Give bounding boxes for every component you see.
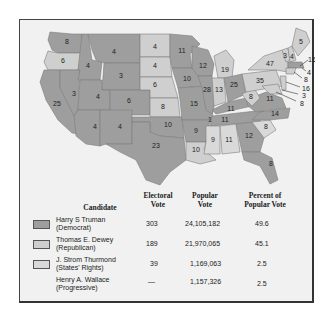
label-ct: 8	[304, 76, 308, 83]
label-mi: 19	[221, 66, 229, 73]
popular-vote: 21,970,065	[185, 240, 220, 247]
label-ri: 4	[307, 69, 311, 76]
label-sc: 8	[264, 123, 268, 130]
label-az: 4	[93, 123, 97, 130]
label-mo: 15	[190, 100, 198, 107]
label-nm: 4	[118, 123, 122, 130]
candidate-party: (States' Rights)	[56, 264, 116, 272]
leader-ri	[302, 68, 306, 71]
label-sd: 4	[153, 62, 157, 69]
label-oh: 25	[230, 81, 238, 88]
candidate-name: Harry S Truman	[56, 216, 105, 224]
state-wi	[192, 46, 214, 76]
leader-de	[282, 90, 298, 94]
table-row-wallace: Henry A. Wallace (Progressive) — 1,157,3…	[20, 274, 315, 294]
label-ms: 9	[211, 136, 215, 143]
candidate-cell: Harry S Truman (Democrat)	[56, 216, 105, 232]
candidate-party: (Republican)	[56, 244, 113, 252]
label-wi: 12	[199, 62, 207, 69]
label-nc: 14	[271, 110, 279, 117]
label-wa: 8	[65, 38, 69, 45]
percent-popular: 49.6	[255, 220, 269, 227]
us-election-map: 8 6 25 4 3 4 3 4 6 4 4 4 4 6 8 10 23 11 …	[20, 20, 315, 195]
header-electoral: Electoral Vote	[137, 192, 179, 209]
electoral-vote: 303	[146, 220, 158, 227]
label-pa: 35	[256, 77, 264, 84]
percent-popular: 2.5	[257, 280, 267, 287]
candidate-cell: Thomas E. Dewey (Republican)	[56, 236, 113, 252]
swatch-republican	[33, 240, 50, 249]
leader-nj	[286, 82, 300, 87]
header-percent: Percent of Popular Vote	[230, 192, 300, 209]
label-ut: 4	[96, 93, 100, 100]
swatch-states-rights	[33, 260, 50, 269]
candidate-cell: J. Strom Thurmond (States' Rights)	[56, 256, 116, 272]
label-in: 13	[215, 86, 223, 93]
candidate-party: (Progressive)	[56, 284, 109, 292]
label-wv: 8	[249, 93, 253, 100]
label-ar: 9	[194, 127, 198, 134]
label-ky: 11	[227, 105, 234, 112]
popular-vote: 24,105,182	[185, 220, 220, 227]
label-vt: 3	[283, 52, 287, 59]
label-ga: 12	[245, 132, 253, 139]
state-ks	[150, 98, 180, 117]
state-ct	[286, 68, 296, 74]
label-id: 4	[86, 62, 90, 69]
label-tn-split: 1	[208, 116, 212, 123]
candidate-name: Thomas E. Dewey	[56, 236, 113, 244]
label-la: 10	[192, 146, 200, 153]
label-wy: 3	[119, 72, 123, 79]
header-popular: Popular Vote	[180, 192, 230, 209]
label-co: 6	[127, 97, 131, 104]
label-or: 6	[61, 57, 65, 64]
label-tx: 23	[152, 142, 160, 149]
electoral-vote: 39	[150, 260, 158, 267]
state-fl	[242, 152, 278, 184]
label-md: 8	[300, 100, 304, 107]
popular-vote: 1,169,063	[190, 260, 221, 267]
label-ca: 25	[53, 100, 61, 107]
label-nj: 16	[302, 85, 310, 92]
label-me: 5	[299, 38, 303, 45]
label-nd: 4	[153, 43, 157, 50]
label-il: 28	[203, 86, 211, 93]
figure-frame: 8 6 25 4 3 4 3 4 6 4 4 4 4 6 8 10 23 11 …	[19, 19, 314, 303]
label-mt: 4	[112, 48, 116, 55]
leader-ct	[294, 72, 302, 78]
percent-popular: 45.1	[255, 240, 269, 247]
label-ks: 8	[161, 103, 165, 110]
label-tn: 11	[221, 116, 228, 123]
swatch-democrat	[33, 220, 50, 229]
candidate-name: Henry A. Wallace	[56, 276, 109, 284]
state-mi	[214, 50, 234, 78]
label-ny: 47	[266, 60, 274, 67]
candidate-cell: Henry A. Wallace (Progressive)	[56, 276, 109, 292]
header-popular-line2: Vote	[180, 201, 230, 210]
header-electoral-line2: Vote	[137, 201, 179, 210]
table-row-thurmond: J. Strom Thurmond (States' Rights) 39 1,…	[20, 254, 315, 274]
label-fl: 8	[269, 160, 273, 167]
candidate-name: J. Strom Thurmond	[56, 256, 116, 264]
percent-popular: 2.5	[257, 260, 267, 267]
label-ok: 10	[164, 121, 172, 128]
label-ne: 6	[153, 81, 157, 88]
label-ma: 16	[308, 56, 315, 63]
popular-vote: 1,157,326	[190, 278, 221, 285]
state-nj	[280, 76, 286, 90]
electoral-vote: 189	[146, 240, 158, 247]
header-candidate: Candidate	[60, 204, 140, 213]
table-row-truman: Harry S Truman (Democrat) 303 24,105,182…	[20, 214, 315, 234]
label-va: 11	[266, 95, 273, 102]
label-ia: 10	[183, 75, 191, 82]
state-nm	[100, 110, 132, 146]
label-mn: 11	[178, 47, 185, 54]
label-de: 3	[302, 92, 306, 99]
label-nv: 3	[72, 90, 76, 97]
label-al: 11	[225, 136, 232, 143]
header-percent-line2: Popular Vote	[230, 201, 300, 210]
label-nh: 4	[290, 53, 294, 60]
candidate-party: (Democrat)	[56, 224, 105, 232]
table-row-dewey: Thomas E. Dewey (Republican) 189 21,970,…	[20, 234, 315, 254]
electoral-vote: —	[148, 278, 155, 285]
